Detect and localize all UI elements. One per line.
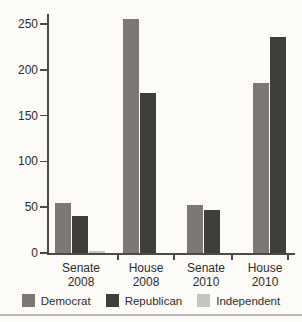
legend-item-independent: Independent (197, 294, 280, 307)
x-category-label: House2008 (114, 261, 178, 289)
y-axis-tick (40, 115, 47, 117)
bar-democrat-house-2008 (123, 19, 139, 253)
legend-label: Independent (216, 295, 280, 307)
y-axis-tick (40, 252, 47, 254)
bar-democrat-house-2010 (253, 83, 269, 253)
bar-chart: 050100150200250Senate2008House2008Senate… (0, 0, 302, 322)
bar-republican-house-2010 (270, 37, 286, 253)
legend-item-democrat: Democrat (22, 294, 91, 307)
bar-republican-house-2008 (140, 93, 156, 253)
independent-swatch-icon (197, 294, 210, 307)
x-axis-tick (117, 255, 119, 260)
y-axis-tick (40, 23, 47, 25)
legend-item-republican: Republican (106, 294, 183, 307)
y-tick-label: 0 (4, 246, 38, 260)
bottom-rule (0, 314, 302, 316)
x-axis-line (47, 253, 295, 255)
bar-republican-senate-2010 (204, 210, 220, 253)
y-tick-label: 250 (4, 17, 38, 31)
y-axis-tick (40, 206, 47, 208)
bar-democrat-senate-2010 (187, 205, 203, 253)
y-tick-label: 50 (4, 200, 38, 214)
y-tick-label: 150 (4, 109, 38, 123)
x-axis-tick (231, 255, 233, 260)
x-category-label: House2010 (233, 261, 297, 289)
y-axis-tick (40, 69, 47, 71)
bar-republican-senate-2008 (72, 216, 88, 253)
bar-democrat-senate-2008 (55, 203, 71, 253)
x-category-label: Senate2010 (174, 261, 238, 289)
x-axis-tick (287, 255, 289, 260)
x-category-label: Senate2008 (49, 261, 113, 289)
x-axis-tick (173, 255, 175, 260)
democrat-swatch-icon (22, 294, 35, 307)
y-axis-line (47, 14, 49, 254)
republican-swatch-icon (106, 294, 119, 307)
bar-independent-senate-2008 (89, 251, 105, 253)
legend-label: Republican (125, 295, 183, 307)
y-axis-tick (40, 161, 47, 163)
legend: Democrat Republican Independent (0, 294, 302, 307)
y-tick-label: 200 (4, 63, 38, 77)
y-tick-label: 100 (4, 154, 38, 168)
legend-label: Democrat (41, 295, 91, 307)
